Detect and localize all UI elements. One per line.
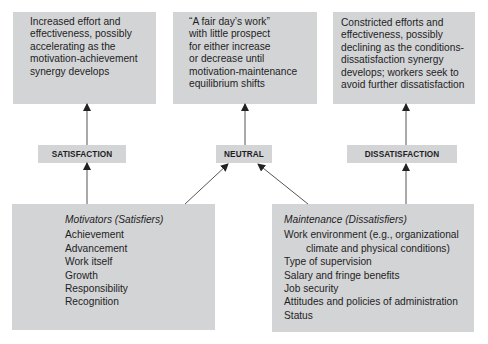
arrow-maintenance-to-neutral [258,164,308,204]
connector-arrows [0,0,488,344]
arrow-motivators-to-neutral [185,164,228,204]
